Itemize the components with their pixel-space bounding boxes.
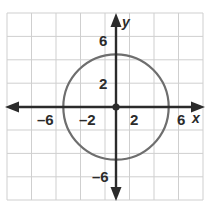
y-axis-arrow-down bbox=[111, 187, 122, 201]
x-tick-label-neg2: –2 bbox=[79, 112, 96, 127]
x-tick-label-neg6: –6 bbox=[37, 112, 54, 127]
y-axis-arrow-up bbox=[111, 13, 122, 27]
x-tick-label-pos6: 6 bbox=[177, 112, 185, 127]
coordinate-plane-figure: –6 –2 2 6 6 2 –6 x y bbox=[0, 0, 220, 208]
x-tick-label-pos2: 2 bbox=[130, 112, 138, 127]
y-tick-label-neg6: –6 bbox=[92, 169, 109, 184]
x-axis-name: x bbox=[192, 111, 200, 125]
y-axis-name: y bbox=[122, 15, 130, 29]
origin-point bbox=[112, 103, 119, 110]
y-tick-label-pos2: 2 bbox=[99, 76, 107, 91]
y-tick-label-pos6: 6 bbox=[99, 33, 107, 48]
graph-canvas bbox=[0, 0, 220, 208]
